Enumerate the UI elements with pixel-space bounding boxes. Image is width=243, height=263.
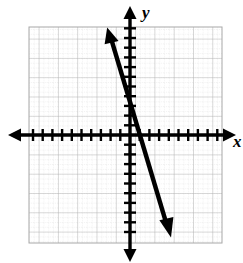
- graph-canvas: [0, 0, 243, 263]
- y-axis-label: y: [142, 4, 150, 21]
- x-axis-label: x: [233, 133, 242, 150]
- y-axis-up-arrow: [124, 6, 137, 19]
- coordinate-plane-figure: y x: [0, 0, 243, 263]
- y-axis-down-arrow: [124, 249, 137, 262]
- x-axis-left-arrow: [8, 129, 21, 142]
